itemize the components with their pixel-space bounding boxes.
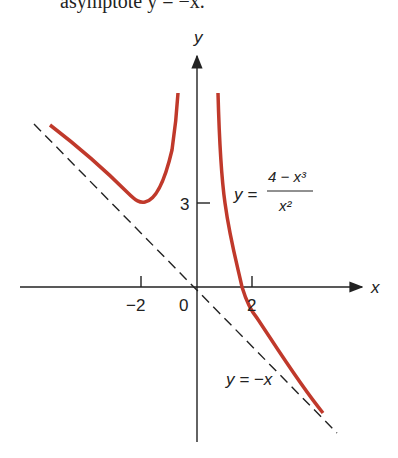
- asymptote-label: y = −x: [225, 370, 273, 389]
- graph: y x −2 0 2 3 y = 4 − x³ x² y = −x: [0, 0, 398, 458]
- x-tick-label-2: 2: [247, 296, 256, 315]
- x-tick-label-neg2: −2: [126, 296, 145, 315]
- curve-equation-denominator: x²: [278, 197, 293, 214]
- curve-equation-y: y =: [233, 185, 257, 204]
- x-axis-label: x: [370, 278, 380, 297]
- y-axis-label: y: [193, 28, 204, 47]
- curve-equation-numerator: 4 − x³: [268, 168, 307, 185]
- x-tick-label-0: 0: [179, 296, 188, 315]
- curve-left-branch: [50, 93, 178, 202]
- y-tick-label-3: 3: [180, 195, 189, 214]
